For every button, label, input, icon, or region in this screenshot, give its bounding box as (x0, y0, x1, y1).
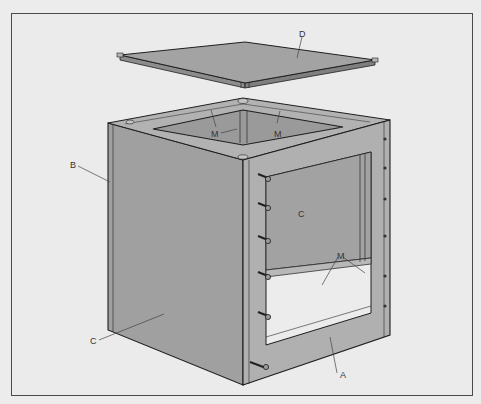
top-panel (117, 42, 378, 88)
label-C-back: C (298, 209, 305, 219)
label-M-right: M (274, 129, 282, 139)
label-C-side: C (90, 336, 97, 346)
hole-icon (383, 137, 386, 140)
hole-icon (383, 166, 386, 169)
hole-icon (383, 197, 386, 200)
cabinet-illustration: D B C C M M M A (0, 0, 481, 404)
left-side-panel (108, 123, 243, 385)
front-face-frame (243, 120, 390, 385)
label-M-left: M (211, 129, 219, 139)
label-D: D (299, 29, 306, 39)
label-A: A (340, 370, 346, 380)
hole-icon (383, 304, 386, 307)
label-B: B (70, 160, 76, 170)
hole-icon (383, 234, 386, 237)
label-M-rails: M (337, 251, 345, 261)
hole-icon (383, 274, 386, 277)
